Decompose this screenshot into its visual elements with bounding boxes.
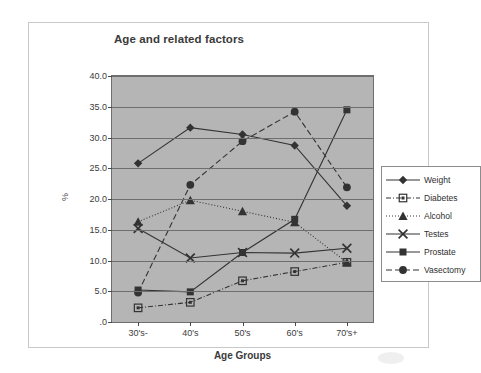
legend-marker-circle-icon bbox=[385, 263, 421, 277]
data-point bbox=[238, 207, 247, 216]
plot-area: .05.010.015.020.025.030.035.040.030's-40… bbox=[111, 75, 374, 323]
gridline bbox=[112, 291, 373, 292]
x-axis-tick-label: 30's- bbox=[128, 328, 147, 338]
y-axis-tick-label: 20.0 bbox=[89, 194, 107, 204]
chart-legend: WeightDiabetesAlcoholTestesProstateVasec… bbox=[381, 166, 481, 282]
y-axis-tick-mark bbox=[108, 291, 112, 292]
legend-item-prostate[interactable]: Prostate bbox=[382, 243, 480, 261]
legend-marker-triangle-icon bbox=[385, 209, 421, 223]
data-point bbox=[291, 108, 299, 116]
chart-frame: Age and related factors % Age Groups .05… bbox=[28, 22, 429, 348]
legend-label: Alcohol bbox=[424, 211, 452, 221]
legend-label: Testes bbox=[424, 229, 449, 239]
x-axis-tick-label: 40's bbox=[182, 328, 198, 338]
x-axis-tick-label: 50's bbox=[234, 328, 250, 338]
y-axis-tick-mark bbox=[108, 107, 112, 108]
y-axis-tick-label: .0 bbox=[99, 317, 107, 327]
x-axis-tick-label: 60's bbox=[287, 328, 303, 338]
series-diabetes bbox=[134, 259, 350, 312]
data-point bbox=[134, 289, 142, 297]
legend-marker-square-icon bbox=[385, 245, 421, 259]
x-axis-tick-mark bbox=[243, 322, 244, 326]
legend-item-weight[interactable]: Weight bbox=[382, 171, 480, 189]
y-axis-tick-mark bbox=[108, 322, 112, 323]
legend-item-alcohol[interactable]: Alcohol bbox=[382, 207, 480, 225]
data-point bbox=[134, 159, 142, 167]
y-axis-tick-mark bbox=[108, 199, 112, 200]
x-axis-tick-mark bbox=[138, 322, 139, 326]
chart-title: Age and related factors bbox=[29, 33, 329, 45]
y-axis-tick-label: 5.0 bbox=[94, 286, 107, 296]
y-axis-tick-mark bbox=[108, 168, 112, 169]
y-axis-tick-label: 35.0 bbox=[89, 102, 107, 112]
series-weight bbox=[134, 123, 351, 210]
gridline bbox=[112, 261, 373, 262]
data-point bbox=[343, 183, 351, 191]
legend-item-diabetes[interactable]: Diabetes bbox=[382, 189, 480, 207]
data-point bbox=[291, 216, 298, 223]
x-axis-tick-mark bbox=[347, 322, 348, 326]
y-axis-tick-mark bbox=[108, 76, 112, 77]
legend-item-vasectomy[interactable]: Vasectomy bbox=[382, 261, 480, 279]
legend-label: Weight bbox=[424, 175, 450, 185]
y-axis-tick-label: 15.0 bbox=[89, 225, 107, 235]
y-axis-tick-label: 30.0 bbox=[89, 133, 107, 143]
legend-item-testes[interactable]: Testes bbox=[382, 225, 480, 243]
legend-label: Prostate bbox=[424, 247, 456, 257]
y-axis-tick-label: 40.0 bbox=[89, 71, 107, 81]
page-watermark bbox=[378, 352, 404, 364]
gridline bbox=[112, 199, 373, 200]
x-axis-tick-mark bbox=[190, 322, 191, 326]
data-point bbox=[186, 181, 194, 189]
y-axis-tick-mark bbox=[108, 138, 112, 139]
y-axis-tick-label: 10.0 bbox=[89, 256, 107, 266]
data-point bbox=[186, 123, 194, 131]
legend-marker-diamond-icon bbox=[385, 173, 421, 187]
gridline bbox=[112, 107, 373, 108]
y-axis-tick-label: 25.0 bbox=[89, 163, 107, 173]
gridline bbox=[112, 230, 373, 231]
data-point bbox=[187, 299, 195, 307]
x-axis-tick-label: 70's+ bbox=[336, 328, 358, 338]
gridline bbox=[112, 138, 373, 139]
y-axis-label: % bbox=[60, 193, 70, 201]
legend-marker-cross-icon bbox=[385, 227, 421, 241]
gridline bbox=[112, 76, 373, 77]
x-axis-label: Age Groups bbox=[111, 350, 374, 361]
legend-label: Vasectomy bbox=[424, 265, 465, 275]
y-axis-tick-mark bbox=[108, 230, 112, 231]
legend-marker-open-square-icon bbox=[385, 191, 421, 205]
x-axis-tick-mark bbox=[295, 322, 296, 326]
legend-label: Diabetes bbox=[424, 193, 458, 203]
y-axis-tick-mark bbox=[108, 261, 112, 262]
data-point bbox=[239, 249, 246, 256]
gridline bbox=[112, 168, 373, 169]
